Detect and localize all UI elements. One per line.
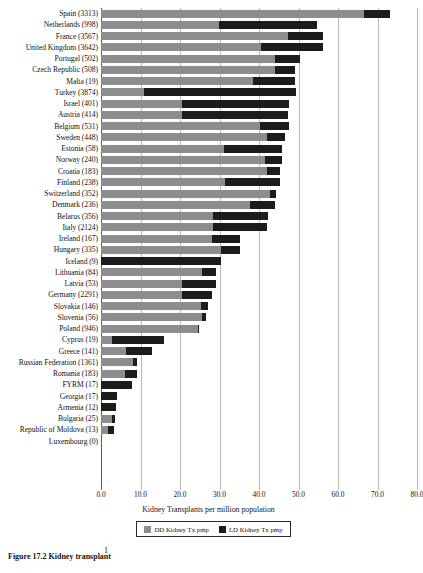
legend-item-dd: DD Kidney Tx pmp — [144, 526, 208, 533]
bar-segment-ld — [219, 21, 317, 29]
bar-row: Germany (2291) — [0, 289, 417, 300]
bar-segment-ld — [250, 201, 274, 209]
bar-cell — [101, 379, 417, 390]
bar-row: Greece (141) — [0, 346, 417, 357]
bar-segment-ld — [108, 426, 114, 434]
bar-cell — [101, 8, 417, 19]
bar-row: Iceland (9) — [0, 256, 417, 267]
bar-segment-ld — [198, 325, 199, 333]
bar-segment-ld — [225, 178, 280, 186]
bar-cell — [101, 323, 417, 334]
category-label: Croatia (183) — [0, 167, 101, 176]
category-label: Sweden (448) — [0, 133, 101, 142]
bar-segment-dd — [101, 156, 265, 164]
bar-segment-dd — [101, 302, 201, 310]
category-label: United Kingdom (3642) — [0, 43, 101, 52]
category-label: Poland (946) — [0, 324, 101, 333]
stacked-bar — [101, 370, 137, 378]
bar-row: Slovenia (56) — [0, 312, 417, 323]
bar-segment-dd — [101, 77, 253, 85]
bar-row: Italy (2124) — [0, 222, 417, 233]
bar-segment-dd — [101, 325, 198, 333]
bar-segment-ld — [182, 280, 216, 288]
bar-row: Georgia (17) — [0, 391, 417, 402]
bar-row: United Kingdom (3642) — [0, 42, 417, 53]
bar-row: Switzerland (352) — [0, 188, 417, 199]
bar-segment-dd — [101, 10, 364, 18]
category-label: Greece (141) — [0, 347, 101, 356]
bar-cell — [101, 402, 417, 413]
bar-segment-ld — [270, 190, 275, 198]
stacked-bar — [101, 77, 295, 85]
bar-segment-dd — [101, 190, 270, 198]
bar-row: Austria (414) — [0, 109, 417, 120]
category-label: Russian Federation (1361) — [0, 358, 101, 367]
bar-segment-ld — [213, 212, 268, 220]
category-label: Lithuania (84) — [0, 268, 101, 277]
x-tick-label: 70.0 — [371, 490, 384, 500]
bar-cell — [101, 289, 417, 300]
category-label: Slovenia (56) — [0, 313, 101, 322]
bar-cell — [101, 368, 417, 379]
stacked-bar — [101, 426, 114, 434]
bar-row: Lithuania (84) — [0, 267, 417, 278]
bar-segment-dd — [101, 43, 261, 51]
bar-row: FYRM (17) — [0, 379, 417, 390]
category-label: Luxembourg (0) — [0, 437, 101, 446]
category-label: Denmark (236) — [0, 200, 101, 209]
stacked-bar — [101, 223, 267, 231]
x-tick-label: 60.0 — [332, 490, 345, 500]
bar-row: Turkey (3874) — [0, 87, 417, 98]
bar-row: Russian Federation (1361) — [0, 357, 417, 368]
stacked-bar — [101, 10, 390, 18]
bar-segment-ld — [182, 111, 288, 119]
stacked-bar — [101, 280, 216, 288]
bar-cell — [101, 436, 417, 447]
bar-cell — [101, 301, 417, 312]
stacked-bar — [101, 201, 275, 209]
bar-segment-ld — [125, 370, 136, 378]
stacked-bar — [101, 100, 289, 108]
bar-row: Spain (3313) — [0, 8, 417, 19]
bar-cell — [101, 233, 417, 244]
stacked-bar — [101, 325, 199, 333]
category-label: Hungary (335) — [0, 245, 101, 254]
bar-segment-dd — [101, 336, 112, 344]
bar-segment-ld — [182, 100, 289, 108]
stacked-bar — [101, 257, 221, 265]
category-label: Republic of Moldova (13) — [0, 425, 101, 434]
bar-segment-dd — [101, 167, 267, 175]
figure-caption-text: Figure 17.2 Kidney transplant — [8, 552, 111, 561]
bar-segment-dd — [101, 347, 126, 355]
bar-row: Romania (183) — [0, 368, 417, 379]
bar-segment-dd — [101, 268, 202, 276]
category-label: Switzerland (352) — [0, 189, 101, 198]
bar-row: Denmark (236) — [0, 199, 417, 210]
bar-cell — [101, 154, 417, 165]
bar-segment-ld — [201, 302, 209, 310]
category-label: Georgia (17) — [0, 392, 101, 401]
stacked-bar — [101, 145, 282, 153]
gridline-80 — [417, 8, 418, 490]
category-label: Portugal (502) — [0, 54, 101, 63]
bar-row: Netherlands (998) — [0, 19, 417, 30]
bar-segment-ld — [213, 223, 267, 231]
bar-row: Latvia (53) — [0, 278, 417, 289]
bar-row: Bulgaria (25) — [0, 413, 417, 424]
category-label: Slovakia (146) — [0, 302, 101, 311]
bar-cell — [101, 312, 417, 323]
stacked-bar — [101, 66, 295, 74]
stacked-bar — [101, 381, 132, 389]
plot-area: Spain (3313)Netherlands (998)France (356… — [0, 8, 417, 490]
stacked-bar — [101, 55, 300, 63]
bar-cell — [101, 64, 417, 75]
bar-segment-ld — [261, 43, 323, 51]
bar-segment-dd — [101, 212, 213, 220]
stacked-bar — [101, 415, 115, 423]
stacked-bar — [101, 133, 285, 141]
bar-segment-dd — [101, 111, 182, 119]
bar-cell — [101, 76, 417, 87]
chart-legend: DD Kidney Tx pmp LD Kidney Tx pmp — [136, 521, 291, 537]
stacked-bar — [101, 246, 240, 254]
category-label: FYRM (17) — [0, 380, 101, 389]
